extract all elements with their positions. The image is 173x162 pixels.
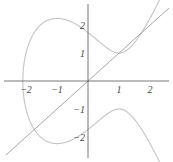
y-tick-label: 1 [80, 48, 85, 59]
line-y-equals-x [6, 8, 169, 155]
y-tick-label: 2 [80, 20, 85, 31]
x-tick-label: 1 [117, 84, 122, 95]
y-tick-label: −1 [73, 104, 85, 115]
x-tick-label: −2 [20, 84, 32, 95]
x-tick-label: 2 [148, 84, 153, 95]
plot-area: −2−11221−1−2 [0, 0, 173, 162]
y-tick-label: −2 [73, 132, 85, 143]
x-tick-label: −1 [51, 84, 63, 95]
